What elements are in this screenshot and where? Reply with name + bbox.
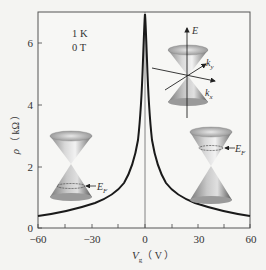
x-tick-label: −60 [29,233,47,245]
x-tick-label: 60 [246,233,258,245]
x-tick-label: −30 [83,233,101,245]
upper-cone-cap [190,127,232,137]
y-tick-label: 2 [28,161,34,173]
x-tick-label: 30 [194,233,206,245]
y-axis-unit: （ kΩ ） [10,110,21,147]
field-annotation: 0 T [72,42,87,53]
y-tick-label: 6 [28,37,34,49]
lower-cone-base [168,98,208,106]
temperature-annotation: 1 K [72,28,88,39]
lower-cone-base [190,196,232,204]
x-tick-label: 0 [142,233,148,245]
upper-cone-cap [168,45,208,55]
x-axis-unit: （ V ） [142,250,174,261]
x-axis-label: Vg（ V ） [132,249,174,264]
y-axis-label: ρ（ kΩ ） [9,110,21,156]
resistivity-chart: 0 2 4 6 −60 −30 0 30 60 Vg（ V ） ρ（ kΩ ） … [0,0,266,270]
lower-cone-base [50,193,92,201]
y-tick-label: 4 [28,99,34,111]
upper-cone-cap [50,131,92,141]
y-axis-symbol: ρ [9,149,21,155]
energy-axis-label: E [191,25,198,36]
